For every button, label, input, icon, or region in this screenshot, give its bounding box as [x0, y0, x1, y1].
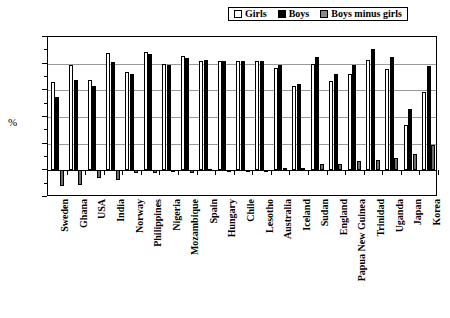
bar-girls [404, 125, 408, 170]
x-axis-label-australia: Australia [283, 199, 293, 239]
bar-boys-minus-girls [338, 164, 342, 171]
bar-group [364, 37, 383, 195]
bar-group [85, 37, 104, 195]
bar-boys-minus-girls [431, 145, 435, 170]
legend-swatch-boys-icon [278, 10, 286, 18]
x-axis-label-chile: Chile [246, 199, 256, 222]
bar-boys-minus-girls [190, 170, 194, 173]
bar-group [215, 37, 234, 195]
bar-boys [408, 109, 412, 170]
bar-group [345, 37, 364, 195]
x-axis-label-sweden: Sweden [60, 199, 70, 232]
bar-boys [74, 80, 78, 171]
bar-boys [260, 61, 264, 170]
x-axis-label-korea: Korea [432, 199, 442, 225]
x-axis-label-philippines: Philippines [153, 199, 163, 247]
bar-boys [185, 58, 189, 170]
bar-boys [222, 61, 226, 170]
chart-legend: Girls Boys Boys minus girls [228, 7, 408, 21]
bar-girls [88, 80, 92, 171]
bar-boys-minus-girls [97, 170, 101, 178]
bar-boys-minus-girls [116, 170, 120, 179]
x-axis-label-sudan: Sudan [320, 199, 330, 226]
bar-boys [130, 74, 134, 170]
bar-group [178, 37, 197, 195]
legend-label-boys-minus-girls: Boys minus girls [331, 9, 402, 19]
bar-girls [181, 56, 185, 171]
bar-boys [297, 84, 301, 171]
bar-boys [334, 74, 338, 170]
legend-item-girls: Girls [234, 9, 267, 19]
bar-girls [106, 53, 110, 170]
bar-boys-minus-girls [264, 170, 268, 172]
x-axis-label-iceland: Iceland [302, 199, 312, 231]
bar-boys [241, 61, 245, 170]
x-axis-label-spain: Spain [209, 199, 219, 223]
legend-swatch-girls-icon [234, 10, 242, 18]
x-axis-label-papua-new-guinea: Papua New Guinea [357, 199, 367, 281]
bar-boys-minus-girls [153, 170, 157, 173]
bar-boys [204, 60, 208, 171]
bar-girls [162, 64, 166, 171]
bar-girls [385, 69, 389, 170]
bar-girls [125, 72, 129, 171]
bar-boys [371, 49, 375, 170]
x-axis-label-nigeria: Nigeria [172, 199, 182, 231]
bar-girls [236, 61, 240, 170]
bar-group [327, 37, 346, 195]
bar-group [271, 37, 290, 195]
bar-girls [292, 86, 296, 170]
bar-girls [255, 61, 259, 170]
x-axis-label-trinidad: Trinidad [376, 199, 386, 237]
bar-boys [315, 57, 319, 170]
bar-boys-minus-girls [376, 160, 380, 171]
x-axis-category-labels: SwedenGhanaUSAIndiaNorwayPhilippinesNige… [47, 197, 437, 312]
bar-boys-minus-girls [78, 170, 82, 185]
bar-girls [274, 68, 278, 171]
bar-girls [422, 92, 426, 171]
bar-boys-minus-girls [394, 158, 398, 170]
bar-girls [366, 60, 370, 171]
bar-boys-minus-girls [171, 170, 175, 172]
bar-boys [352, 65, 356, 170]
bar-boys-minus-girls [320, 164, 324, 171]
bar-boys-minus-girls [227, 170, 231, 172]
bar-group [308, 37, 327, 195]
x-axis-label-england: England [339, 199, 349, 235]
bar-boys-minus-girls [283, 168, 287, 171]
bar-group [141, 37, 160, 195]
x-axis-label-hungary: Hungary [227, 199, 237, 237]
bar-group [159, 37, 178, 195]
x-axis-label-japan: Japan [413, 199, 423, 225]
bar-boys [278, 65, 282, 170]
bar-girls [69, 65, 73, 170]
legend-label-boys: Boys [289, 9, 310, 19]
x-axis-label-lesotho: Lesotho [265, 199, 275, 233]
bar-boys [111, 62, 115, 170]
bar-girls [199, 61, 203, 170]
bar-boys [92, 86, 96, 170]
bar-boys [55, 97, 59, 170]
bar-group [104, 37, 123, 195]
bar-boys [390, 57, 394, 170]
x-axis-label-ghana: Ghana [79, 199, 89, 228]
bar-boys [427, 66, 431, 170]
bar-girls [144, 52, 148, 171]
bar-group [48, 37, 67, 195]
plot-area [47, 36, 437, 196]
bar-girls [51, 82, 55, 170]
x-axis-label-mozambique: Mozambique [190, 199, 200, 255]
bar-group [401, 37, 420, 195]
x-axis-label-usa: USA [97, 199, 107, 219]
bar-group [252, 37, 271, 195]
bar-group [197, 37, 216, 195]
bar-boys-minus-girls [357, 161, 361, 170]
x-axis-label-india: India [116, 199, 126, 222]
bar-group [382, 37, 401, 195]
bar-boys-minus-girls [60, 170, 64, 186]
legend-item-boys-minus-girls: Boys minus girls [320, 9, 402, 19]
bar-boys-minus-girls [301, 168, 305, 171]
bar-group [419, 37, 438, 195]
bar-girls [348, 74, 352, 170]
bar-group [289, 37, 308, 195]
